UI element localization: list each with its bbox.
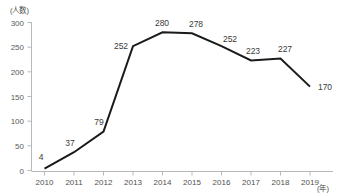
data-label: 79 (94, 117, 104, 127)
y-tick-label: 0 (20, 167, 25, 176)
chart-canvas: (人数) 300 250 200 150 100 50 0 (0, 0, 339, 196)
x-tick-label: 2010 (36, 178, 54, 187)
data-value-labels: 4 37 79 252 280 278 252 223 227 170 (39, 18, 333, 162)
data-label: 280 (155, 18, 169, 28)
x-tick-label: 2013 (124, 178, 142, 187)
y-tick-label: 150 (11, 93, 25, 102)
y-axis-ticks (28, 23, 32, 171)
y-tick-label: 300 (11, 19, 25, 28)
x-axis-ticks (45, 172, 311, 176)
x-tick-label: 2015 (183, 178, 201, 187)
x-tick-label: 2018 (272, 178, 290, 187)
x-tick-label: 2012 (95, 178, 113, 187)
data-label: 278 (189, 19, 203, 29)
x-tick-label: 2014 (154, 178, 172, 187)
data-label: 227 (278, 44, 292, 54)
y-axis-tick-labels: 300 250 200 150 100 50 0 (11, 19, 25, 176)
y-tick-label: 100 (11, 117, 25, 126)
data-label: 37 (65, 138, 75, 148)
x-axis-caption: (年) (317, 183, 329, 193)
x-tick-label: 2017 (242, 178, 260, 187)
y-tick-label: 200 (11, 68, 25, 77)
y-tick-label: 250 (11, 43, 25, 52)
data-label: 4 (39, 152, 44, 162)
y-tick-label: 50 (15, 142, 24, 151)
x-axis-tick-labels: 2010 2011 2012 2013 2014 2015 2016 2017 … (36, 178, 320, 187)
y-axis-caption: (人数) (10, 5, 29, 15)
data-label: 252 (223, 34, 237, 44)
data-line-series (45, 32, 311, 168)
data-label: 252 (114, 41, 128, 51)
x-tick-label: 2011 (65, 178, 83, 187)
data-label: 223 (246, 46, 260, 56)
line-chart: (人数) 300 250 200 150 100 50 0 (0, 0, 339, 196)
data-label: 170 (318, 82, 332, 92)
x-tick-label: 2016 (213, 178, 231, 187)
